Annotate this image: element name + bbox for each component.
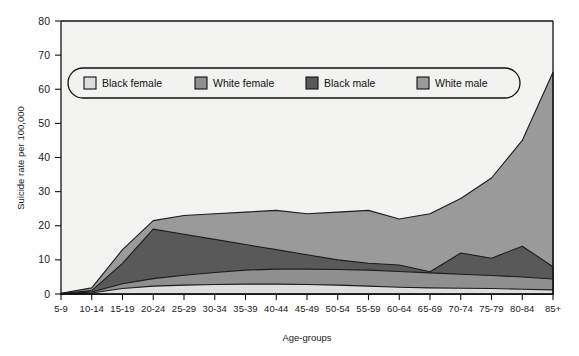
legend-label-white-male: White male xyxy=(435,77,488,89)
x-tick-label: 75-79 xyxy=(479,303,503,314)
x-tick-label: 5-9 xyxy=(54,303,68,314)
x-tick-label: 45-49 xyxy=(295,303,319,314)
legend-swatch-black-male xyxy=(306,77,318,89)
x-tick-label: 50-54 xyxy=(326,303,350,314)
y-tick-label: 50 xyxy=(38,117,50,129)
chart-legend: Black femaleWhite femaleBlack maleWhite … xyxy=(68,68,520,98)
x-tick-label: 20-24 xyxy=(141,303,165,314)
y-axis-title: Suicide rate per 100,000 xyxy=(15,106,26,210)
x-tick-label: 15-19 xyxy=(110,303,134,314)
chart-canvas: 01020304050607080 5-910-1415-1920-2425-2… xyxy=(0,0,579,356)
suicide-rate-area-chart: 01020304050607080 5-910-1415-1920-2425-2… xyxy=(0,0,579,356)
legend-swatch-white-female xyxy=(195,77,207,89)
y-tick-label: 0 xyxy=(44,288,50,300)
y-axis-ticks: 01020304050607080 xyxy=(38,15,61,300)
legend-swatch-black-female xyxy=(84,77,96,89)
x-tick-label: 60-64 xyxy=(387,303,411,314)
x-tick-label: 70-74 xyxy=(449,303,473,314)
y-tick-label: 80 xyxy=(38,15,50,27)
y-tick-label: 70 xyxy=(38,49,50,61)
x-tick-label: 40-44 xyxy=(264,303,288,314)
y-tick-label: 20 xyxy=(38,219,50,231)
y-tick-label: 60 xyxy=(38,83,50,95)
x-tick-label: 30-34 xyxy=(203,303,227,314)
x-tick-label: 10-14 xyxy=(80,303,104,314)
x-tick-label: 65-69 xyxy=(418,303,442,314)
legend-label-black-female: Black female xyxy=(102,77,162,89)
legend-label-black-male: Black male xyxy=(324,77,376,89)
legend-label-white-female: White female xyxy=(213,77,274,89)
x-tick-label: 35-39 xyxy=(233,303,257,314)
y-tick-label: 30 xyxy=(38,185,50,197)
legend-swatch-white-male xyxy=(417,77,429,89)
x-tick-label: 25-29 xyxy=(172,303,196,314)
y-tick-label: 10 xyxy=(38,253,50,265)
x-tick-label: 80-84 xyxy=(510,303,534,314)
x-axis-title: Age-groups xyxy=(282,332,331,343)
x-axis-ticks: 5-910-1415-1920-2425-2930-3435-3940-4445… xyxy=(54,294,561,314)
y-tick-label: 40 xyxy=(38,151,50,163)
x-tick-label: 55-59 xyxy=(356,303,380,314)
x-tick-label: 85+ xyxy=(545,303,562,314)
